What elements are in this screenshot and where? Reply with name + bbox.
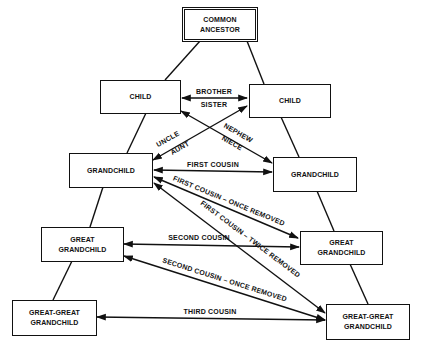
descent-line-right-4 bbox=[350, 264, 368, 304]
descent-line-left-1 bbox=[165, 41, 200, 80]
descent-line-right-3 bbox=[317, 191, 334, 231]
node-label: COMMON ANCESTOR bbox=[200, 15, 240, 35]
descent-line-left-2 bbox=[127, 113, 146, 153]
label-aunt: AUNT bbox=[169, 139, 190, 155]
node-label: CHILD bbox=[279, 96, 301, 106]
node-great-great-grandchild-right: GREAT-GREAT GRANDCHILD bbox=[326, 304, 410, 340]
label-third-cousin: THIRD COUSIN bbox=[184, 308, 237, 315]
node-great-great-grandchild-left: GREAT-GREAT GRANDCHILD bbox=[12, 300, 97, 336]
node-label: GREAT GRANDCHILD bbox=[58, 235, 106, 255]
arrow-third-cousin bbox=[97, 317, 325, 320]
label-second-cousin: SECOND COUSIN bbox=[168, 234, 230, 241]
label-first-cousin: FIRST COUSIN bbox=[187, 161, 239, 168]
descent-line-right-1 bbox=[247, 41, 264, 84]
descent-line-right-2 bbox=[281, 117, 299, 157]
descent-line-left-4 bbox=[53, 261, 72, 300]
node-label: GRANDCHILD bbox=[291, 170, 339, 180]
node-great-grandchild-right: GREAT GRANDCHILD bbox=[300, 231, 383, 265]
node-label: GRANDCHILD bbox=[87, 166, 135, 176]
connector-layer: BROTHER SISTER UNCLE AUNT NEPHEW NIECE F… bbox=[0, 0, 421, 349]
node-label: GREAT-GREAT GRANDCHILD bbox=[29, 308, 80, 328]
label-brother: BROTHER bbox=[196, 88, 232, 95]
node-child-right: CHILD bbox=[249, 84, 331, 118]
node-grandchild-left: GRANDCHILD bbox=[69, 153, 153, 188]
node-great-grandchild-left: GREAT GRANDCHILD bbox=[41, 227, 124, 262]
node-label: GREAT GRANDCHILD bbox=[317, 238, 365, 258]
descent-line-left-3 bbox=[90, 187, 103, 227]
node-grandchild-right: GRANDCHILD bbox=[273, 157, 357, 192]
node-label: CHILD bbox=[130, 92, 152, 102]
label-sister: SISTER bbox=[201, 101, 227, 108]
label-second-cousin-once-removed: SECOND COUSIN – ONCE REMOVED bbox=[162, 257, 288, 303]
consanguinity-diagram: BROTHER SISTER UNCLE AUNT NEPHEW NIECE F… bbox=[0, 0, 421, 349]
node-child-left: CHILD bbox=[100, 80, 181, 114]
arrow-second-cousin bbox=[124, 244, 299, 247]
node-common-ancestor: COMMON ANCESTOR bbox=[182, 7, 258, 42]
arrow-first-cousin bbox=[154, 170, 272, 172]
node-label: GREAT-GREAT GRANDCHILD bbox=[342, 312, 393, 332]
